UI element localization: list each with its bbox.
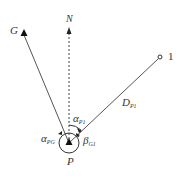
backsight-triangle-icon xyxy=(21,29,28,36)
north-label: N xyxy=(66,14,73,24)
azimuth-p1-arc xyxy=(69,125,81,130)
distance-symbol: D xyxy=(122,96,130,108)
azimuth-p1-label: αP1 xyxy=(73,113,85,125)
angle-g1-label: βG1 xyxy=(83,135,96,147)
backsight-label: G xyxy=(10,25,18,36)
point-1-label: 1 xyxy=(168,51,174,62)
line-p1 xyxy=(69,59,158,143)
azimuth-pg-arrow-icon xyxy=(58,131,62,135)
angle-g1-subscript: G1 xyxy=(88,141,95,147)
azimuth-pg-label: αPG xyxy=(41,133,55,145)
diagram-graphics xyxy=(0,0,185,176)
azimuth-p1-subscript: P1 xyxy=(79,119,86,125)
distance-subscript: P1 xyxy=(130,103,137,109)
azimuth-pg-subscript: PG xyxy=(47,139,55,145)
survey-diagram: N G 1 P DP1 αP1 αPG βG1 xyxy=(0,0,185,176)
line-pg xyxy=(24,35,69,143)
north-arrow-icon xyxy=(67,27,72,34)
station-label: P xyxy=(67,156,74,167)
station-triangle-icon xyxy=(66,138,73,145)
distance-label: DP1 xyxy=(122,97,137,109)
point-1-marker xyxy=(158,55,162,59)
